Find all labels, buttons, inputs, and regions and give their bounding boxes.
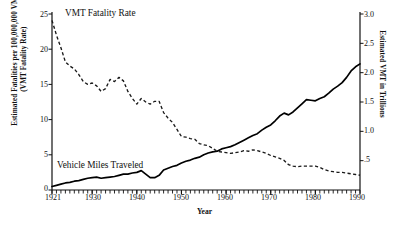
chart-container: Estimated Fatalities per 100,000,000 VMT… — [0, 0, 409, 226]
plot-area — [0, 0, 409, 226]
series-line-vehicle-miles-traveled — [52, 64, 360, 187]
series-line-fatality-rate — [52, 20, 360, 175]
ticks-group — [49, 14, 364, 195]
